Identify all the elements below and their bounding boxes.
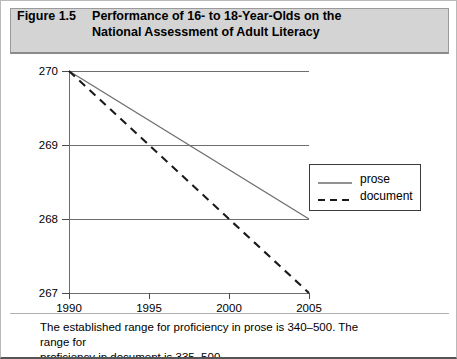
figure-title-line-1: Performance of 16- to 18-Year-Olds on th…	[92, 8, 392, 24]
x-tick-2005	[309, 293, 310, 299]
plot-area: 270 269 268 267 1990 1995 2000 2005	[69, 71, 309, 293]
y-tick-269	[62, 145, 69, 146]
y-tick-267	[62, 293, 69, 294]
figure-header: Figure 1.5 Performance of 16- to 18-Year…	[17, 8, 392, 40]
figure-title: Performance of 16- to 18-Year-Olds on th…	[92, 8, 392, 40]
figure-title-line-2: National Assessment of Adult Literacy	[92, 24, 392, 40]
legend-swatch-dashed-icon	[318, 191, 352, 201]
series-svg	[69, 71, 309, 293]
y-axis-label-268: 268	[39, 213, 58, 225]
x-tick-2000	[229, 293, 230, 299]
series-line-document	[69, 71, 309, 293]
footnote-line-2: proficiency in document is 335–500.	[40, 350, 390, 359]
gridline-267-x-axis: 267	[69, 293, 309, 294]
figure-footnote: The established range for proficiency in…	[10, 313, 449, 353]
chart-legend: prose document	[309, 164, 421, 211]
x-tick-1990	[69, 293, 70, 299]
legend-item-prose: prose	[318, 170, 412, 187]
chart-area: 270 269 268 267 1990 1995 2000 2005	[1, 54, 457, 312]
legend-label-document: document	[360, 189, 413, 203]
y-axis-label-270: 270	[39, 65, 58, 77]
x-tick-1995	[149, 293, 150, 299]
footnote-line-1: The established range for proficiency in…	[40, 320, 390, 350]
footnote-text: The established range for proficiency in…	[40, 320, 390, 359]
y-axis-label-267: 267	[39, 287, 58, 299]
y-tick-270	[62, 71, 69, 72]
series-line-prose	[69, 71, 309, 219]
legend-label-prose: prose	[360, 172, 390, 186]
figure-number: Figure 1.5	[17, 8, 76, 24]
legend-item-document: document	[318, 187, 412, 204]
legend-swatch-solid-icon	[318, 174, 352, 184]
y-tick-268	[62, 219, 69, 220]
figure-container: Figure 1.5 Performance of 16- to 18-Year…	[0, 0, 457, 359]
y-axis-label-269: 269	[39, 139, 58, 151]
